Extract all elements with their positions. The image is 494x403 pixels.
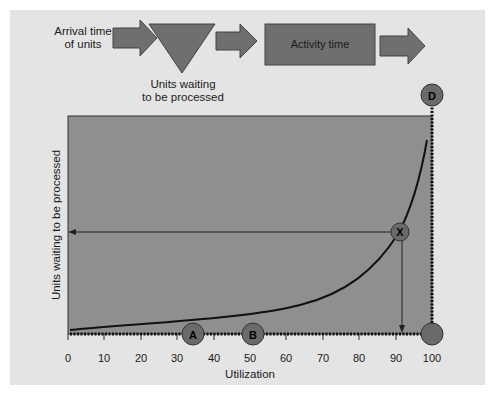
x-tick-60: 60	[280, 352, 292, 364]
activity-label: Activity time	[265, 38, 375, 51]
middle-arrow	[216, 24, 257, 58]
queue-label: Units waiting to be processed	[133, 78, 233, 104]
x-axis-label: Utilization	[225, 368, 275, 381]
svg-text:D: D	[428, 90, 436, 102]
x-tick-10: 10	[98, 352, 110, 364]
queue-label-line2: to be processed	[133, 91, 233, 104]
svg-text:B: B	[249, 329, 257, 341]
x-tick-30: 30	[171, 352, 183, 364]
x-tick-80: 80	[353, 352, 365, 364]
svg-text:X: X	[396, 226, 404, 238]
arrival-label: Arrival time of units	[53, 25, 113, 51]
x-tick-40: 40	[208, 352, 220, 364]
queue-triangle	[149, 24, 215, 73]
marker-a: A	[182, 323, 204, 345]
diagram-graphics: A B X D	[0, 0, 494, 403]
queue-label-line1: Units waiting	[133, 78, 233, 91]
x-tick-0: 0	[65, 352, 71, 364]
output-arrow	[380, 28, 425, 64]
marker-b: B	[242, 323, 264, 345]
marker-d: D	[421, 84, 443, 106]
x-tick-100: 100	[423, 352, 441, 364]
svg-text:A: A	[189, 329, 197, 341]
arrival-label-line1: Arrival time	[53, 25, 113, 38]
x-tick-50: 50	[244, 352, 256, 364]
marker-x: X	[391, 223, 409, 241]
arrival-label-line2: of units	[53, 38, 113, 51]
x-tick-90: 90	[390, 352, 402, 364]
plot-area	[68, 116, 432, 334]
x-tick-20: 20	[135, 352, 147, 364]
y-axis-label: Units waiting to be processed	[50, 150, 63, 300]
marker-capacity	[421, 323, 443, 345]
x-tick-70: 70	[317, 352, 329, 364]
